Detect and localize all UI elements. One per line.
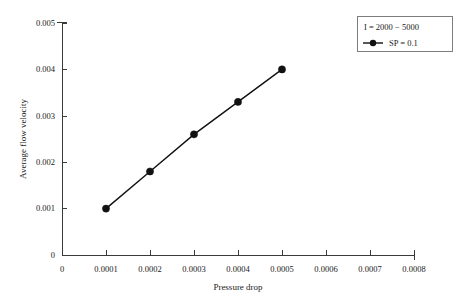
data-point <box>102 205 109 212</box>
x-tick-label-1: 0.0001 <box>94 264 117 274</box>
y-tick-label-0: 0 <box>51 250 55 260</box>
y-tick-label-1: 0.001 <box>36 203 55 213</box>
legend-entry-label: SP = 0.1 <box>389 38 418 48</box>
x-tick-label-2: 0.0002 <box>138 264 161 274</box>
x-tick-label-3: 0.0003 <box>182 264 205 274</box>
x-tick-label-7: 0.0007 <box>358 264 381 274</box>
chart-figure: 0 0.001 0.002 0.003 0.004 0.005 0 0.0001… <box>0 0 468 301</box>
data-point <box>278 66 285 73</box>
y-tick-label-4: 0.004 <box>36 64 56 74</box>
y-tick-label-3: 0.003 <box>36 111 55 121</box>
x-tick-label-0: 0 <box>60 264 64 274</box>
legend-header: I = 2000 − 5000 <box>364 22 419 32</box>
x-axis-tick-labels: 0 0.0001 0.0002 0.0003 0.0004 0.0005 0.0… <box>60 264 426 274</box>
legend-marker-icon <box>370 40 376 46</box>
y-tick-label-5: 0.005 <box>36 18 55 28</box>
x-axis-title: Pressure drop <box>213 282 263 292</box>
data-point <box>146 168 153 175</box>
data-point <box>234 98 241 105</box>
legend: I = 2000 − 5000 SP = 0.1 <box>357 16 452 51</box>
x-tick-label-5: 0.0005 <box>270 264 293 274</box>
line-chart: 0 0.001 0.002 0.003 0.004 0.005 0 0.0001… <box>0 0 468 301</box>
y-tick-label-2: 0.002 <box>36 157 55 167</box>
x-tick-label-4: 0.0004 <box>226 264 250 274</box>
x-tick-label-6: 0.0006 <box>314 264 337 274</box>
y-axis-title: Average flow velocity <box>18 99 28 179</box>
data-point <box>190 131 197 138</box>
x-tick-label-8: 0.0008 <box>402 264 425 274</box>
